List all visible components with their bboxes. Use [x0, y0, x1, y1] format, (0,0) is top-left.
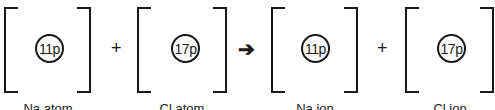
nucleus-cl-ion: 17p	[437, 34, 466, 63]
nucleus-cl-atom: 17p	[171, 34, 200, 63]
plus-sign: +	[111, 38, 122, 58]
label-cl-atom: Cl atom	[132, 101, 232, 110]
right-bracket	[344, 7, 358, 93]
plus-sign: +	[377, 38, 388, 58]
label-na-atom: Na atom	[0, 101, 98, 110]
label-cl-ion: Cl ion	[400, 101, 495, 110]
left-bracket	[271, 7, 285, 93]
left-bracket	[405, 7, 419, 93]
reaction-arrow-icon: ➔	[238, 39, 255, 59]
left-bracket	[4, 7, 18, 93]
right-bracket	[213, 7, 227, 93]
nucleus-na-atom: 11p	[35, 34, 64, 63]
label-na-ion: Na ion	[265, 101, 365, 110]
nucleus-na-ion: 11p	[301, 34, 330, 63]
left-bracket	[137, 7, 151, 93]
right-bracket	[77, 7, 91, 93]
right-bracket	[480, 7, 494, 93]
